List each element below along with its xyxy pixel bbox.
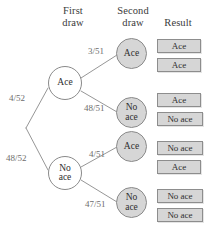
node-first-draw-no-ace: No ace (48, 156, 82, 190)
probability-no-ace-to-no-ace: 47/51 (85, 199, 106, 209)
probability-ace-to-no-ace: 48/51 (84, 103, 105, 113)
result-box-noace-ace-second: Ace (157, 160, 201, 174)
probability-tree-diagram: First draw Second draw Result Ace No ace… (0, 0, 206, 232)
node-second-draw-no-ace-after-no-ace-label-line2: ace (125, 203, 138, 213)
result-box-ace-noace-second: No ace (157, 112, 203, 126)
column-header-result: Result (152, 17, 204, 29)
probability-root-to-ace: 4/52 (9, 93, 25, 103)
node-second-draw-no-ace-after-ace: No ace (116, 97, 147, 128)
result-box-ace-ace-second: Ace (157, 58, 201, 72)
node-second-draw-ace-after-no-ace: Ace (116, 131, 147, 162)
result-box-ace-ace-first: Ace (157, 39, 201, 53)
node-first-draw-no-ace-label-line2: ace (59, 173, 72, 183)
result-box-noace-noace-second: No ace (157, 208, 203, 222)
first-draw-header-line1: First (42, 5, 104, 17)
column-header-first-draw: First draw (42, 5, 104, 28)
result-box-noace-noace-first: No ace (157, 189, 203, 203)
result-box-ace-noace-first: Ace (157, 93, 201, 107)
node-first-draw-ace: Ace (48, 66, 82, 100)
result-header-label: Result (152, 17, 204, 29)
second-draw-header-line1: Second (104, 5, 162, 17)
node-second-draw-no-ace-after-ace-label-line2: ace (125, 113, 138, 123)
probability-no-ace-to-ace: 4/51 (89, 149, 105, 159)
node-second-draw-ace-after-ace: Ace (116, 38, 147, 69)
node-second-draw-ace-after-no-ace-label: Ace (124, 142, 139, 152)
result-box-noace-ace-first: No ace (157, 141, 203, 155)
branch-root-to-ace (26, 88, 48, 128)
branch-root-to-no-ace (26, 128, 48, 170)
node-second-draw-ace-after-ace-label: Ace (124, 49, 139, 59)
node-first-draw-ace-label: Ace (57, 78, 72, 88)
node-second-draw-no-ace-after-no-ace: No ace (116, 187, 147, 218)
probability-root-to-no-ace: 48/52 (6, 153, 27, 163)
branch-ace-to-ace (81, 55, 117, 78)
probability-ace-to-ace: 3/51 (88, 46, 104, 56)
first-draw-header-line2: draw (42, 17, 104, 29)
